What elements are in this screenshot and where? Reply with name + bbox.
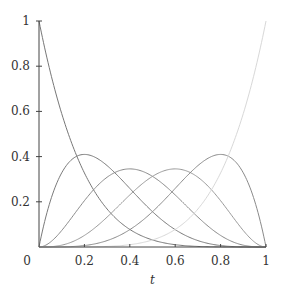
curve-b2-5: [39, 169, 266, 247]
curve-b0-5: [39, 21, 266, 247]
y-tick-label: 0.8: [11, 59, 30, 73]
x-axis-label: t: [150, 273, 155, 287]
y-tick-label: 0.4: [11, 150, 30, 164]
y-tick-label: 0.2: [11, 195, 30, 209]
x-tick-label: 0.6: [166, 254, 185, 268]
x-tick-label: 0.4: [120, 254, 139, 268]
curve-b1-5: [39, 154, 266, 247]
curve-b3-5: [39, 169, 266, 247]
x-tick-label: 0: [23, 254, 31, 268]
y-tick-label: 1: [22, 14, 30, 28]
y-tick-label: 0.6: [11, 104, 30, 118]
x-tick-label: 0.2: [75, 254, 94, 268]
x-tick-label: 1: [262, 254, 270, 268]
bernstein-chart: 00.20.40.60.810.20.40.60.81t: [0, 0, 283, 291]
curve-b5-5: [39, 21, 266, 247]
curve-b4-5: [39, 154, 266, 247]
x-tick-label: 0.8: [211, 254, 230, 268]
